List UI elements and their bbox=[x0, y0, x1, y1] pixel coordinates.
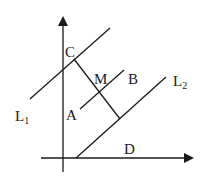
line-l1 bbox=[30, 28, 110, 99]
geometry-diagram: C M B A D L1 L2 bbox=[0, 0, 202, 193]
label-m: M bbox=[94, 71, 107, 87]
label-c: C bbox=[65, 44, 75, 60]
label-l2: L2 bbox=[173, 73, 187, 91]
label-l1: L1 bbox=[15, 108, 29, 126]
label-d: D bbox=[124, 141, 135, 157]
line-l2 bbox=[76, 77, 166, 158]
label-a: A bbox=[66, 107, 77, 123]
segment-c-perpendicular bbox=[74, 59, 120, 119]
diagram-svg: C M B A D L1 L2 bbox=[0, 0, 202, 193]
label-b: B bbox=[128, 71, 138, 87]
